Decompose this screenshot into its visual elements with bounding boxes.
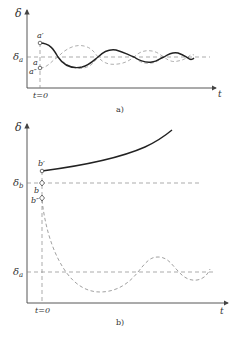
panel-a-dashed-curve-lower: [58, 57, 194, 69]
panel-b: δ t δb δa t=0 b′ b b″ b): [13, 121, 228, 327]
panel-a-delta-a-label: δa: [13, 51, 23, 64]
point-a-double-prime: [38, 66, 42, 70]
point-a-double-prime-label: a″: [29, 67, 37, 76]
panel-a-y-label: δ: [15, 7, 22, 20]
panel-b-t0-label: t=0: [35, 306, 50, 315]
point-b-prime: [40, 169, 44, 173]
point-b-prime-label: b′: [38, 159, 45, 168]
panel-a-t0-label: t=0: [33, 91, 48, 100]
point-a-prime: [38, 41, 42, 45]
panel-b-delta-a-label: δa: [13, 266, 23, 279]
panel-b-caption: b): [116, 318, 124, 327]
panel-b-delta-b-label: δb: [13, 177, 24, 190]
panel-a: δ t δa t=0 a′ a a″ a): [13, 7, 222, 114]
diagram-canvas: δ t δa t=0 a′ a a″ a) δ t δb δa: [0, 0, 240, 338]
point-a-label: a: [33, 58, 38, 67]
point-b-double-prime: [40, 195, 45, 201]
panel-b-dashed-curve: [42, 200, 210, 292]
panel-b-solid-curve: [42, 130, 172, 171]
point-b-double-prime-label: b″: [31, 196, 39, 205]
panel-a-x-label: t: [218, 89, 222, 99]
panel-b-y-label: δ: [15, 121, 22, 134]
point-b: [40, 180, 45, 186]
panel-b-x-label: t: [220, 306, 224, 316]
point-b-label: b: [34, 186, 39, 195]
point-a-prime-label: a′: [37, 31, 44, 40]
panel-a-caption: a): [116, 105, 124, 114]
